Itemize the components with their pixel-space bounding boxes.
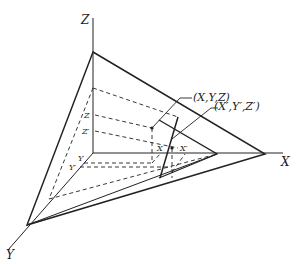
y-axis (8, 153, 93, 250)
z-axis-label: Z (80, 13, 90, 27)
dashed-zprime-line (95, 131, 178, 148)
projected-point-label: (X′,Y′,Z′) (214, 100, 260, 113)
y-tick-label: Y (78, 154, 84, 163)
inner-plane-edge (159, 120, 217, 178)
dashed-z-line (95, 115, 152, 128)
dashed-z-level (93, 88, 178, 117)
outer-plane-triangle (27, 52, 265, 225)
x-tick-label: X (156, 144, 163, 153)
y-axis-label: Y (6, 248, 15, 262)
dashed-x-diag (152, 154, 160, 163)
projection-diagram: Z X Y (X,Y,Z) (X′,Y′,Z′) Z Z′ Y Y′ X X′ (0, 0, 305, 264)
zprime-tick-label: Z′ (81, 127, 90, 136)
base-edge (27, 154, 217, 225)
xprime-tick-label: X′ (179, 144, 188, 153)
x-axis-label: X (280, 155, 290, 169)
yprime-tick-label: Y′ (69, 163, 76, 172)
projected-point-marker (170, 146, 173, 149)
leader-original-point (152, 98, 192, 128)
original-point-marker (150, 126, 153, 129)
dashed-inner-z-apex (49, 88, 93, 199)
z-tick-label: Z (83, 111, 90, 120)
